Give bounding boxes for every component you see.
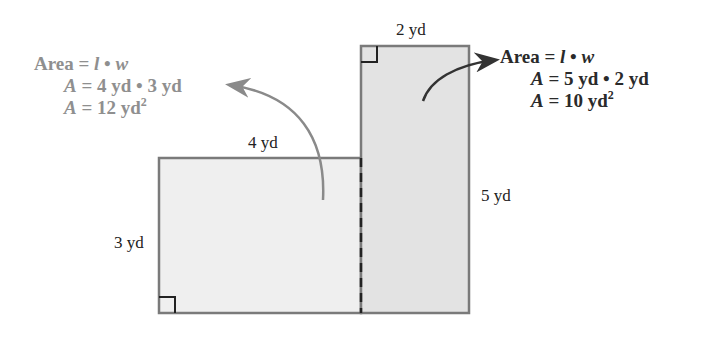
- left-formula-line-3: A = 12 yd2: [34, 97, 182, 119]
- left-rectangle: [159, 158, 361, 313]
- right-formula-line-3: A = 10 yd2: [500, 90, 649, 112]
- left-area-formula: Area = l • w A = 4 yd • 3 yd A = 12 yd2: [34, 53, 182, 119]
- left-rect-height-label: 3 yd: [114, 233, 144, 253]
- right-rectangle: [361, 46, 469, 313]
- right-area-formula: Area = l • w A = 5 yd • 2 yd A = 10 yd2: [500, 46, 649, 112]
- right-rect-height-label: 5 yd: [481, 186, 511, 206]
- left-formula-line-1: Area = l • w: [34, 53, 182, 75]
- right-formula-line-2: A = 5 yd • 2 yd: [500, 68, 649, 90]
- right-formula-line-1: Area = l • w: [500, 46, 649, 68]
- left-rect-width-label: 4 yd: [248, 133, 278, 153]
- right-rect-width-label: 2 yd: [396, 20, 426, 40]
- left-formula-line-2: A = 4 yd • 3 yd: [34, 75, 182, 97]
